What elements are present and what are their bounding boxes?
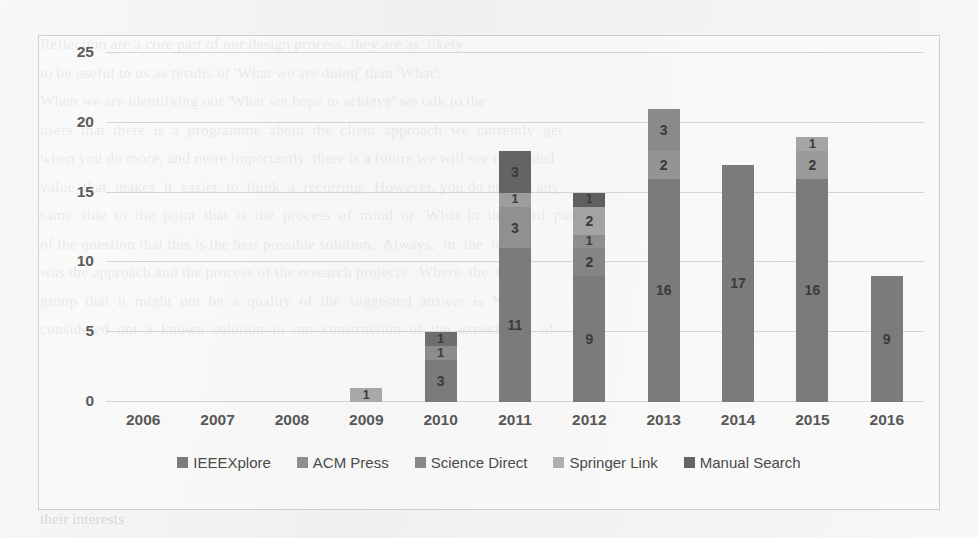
bar-column-2010[interactable]: 311 xyxy=(403,53,477,402)
legend-item-acm-press[interactable]: ACM Press xyxy=(297,454,389,471)
legend-label: ACM Press xyxy=(313,454,389,471)
bar-segment-2016-ieeexplore[interactable]: 9 xyxy=(871,276,903,402)
bar-segment-2010-springer-link[interactable]: 1 xyxy=(425,332,457,346)
bar-segment-2012-manual-search[interactable]: 1 xyxy=(573,193,605,207)
bar-segment-2012-science-direct[interactable]: 1 xyxy=(573,235,605,249)
legend-label: Springer Link xyxy=(569,454,657,471)
x-axis: 2006200720082009201020112012201320142015… xyxy=(106,402,924,429)
legend-swatch-icon xyxy=(553,457,564,468)
bar-segment-2013-science-direct[interactable]: 2 xyxy=(648,151,680,179)
legend-swatch-icon xyxy=(415,457,426,468)
y-axis-tick-0: 0 xyxy=(85,392,94,410)
legend-item-springer-link[interactable]: Springer Link xyxy=(553,454,657,471)
x-axis-tick-2013: 2013 xyxy=(627,402,701,429)
x-axis-tick-2009: 2009 xyxy=(329,402,403,429)
bar-column-2016[interactable]: 9 xyxy=(850,53,924,402)
bar-stack: 311 xyxy=(425,332,457,402)
bar-stack: 92121 xyxy=(573,193,605,402)
legend-swatch-icon xyxy=(684,457,695,468)
bar-segment-2012-springer-link[interactable]: 2 xyxy=(573,207,605,235)
legend-item-ieeexplore[interactable]: IEEEXplore xyxy=(177,454,271,471)
bar-segment-2010-ieeexplore[interactable]: 3 xyxy=(425,360,457,402)
x-axis-tick-2006: 2006 xyxy=(106,402,180,429)
y-axis-tick-15: 15 xyxy=(77,183,94,201)
x-axis-tick-2007: 2007 xyxy=(180,402,254,429)
bar-column-2013[interactable]: 1623 xyxy=(627,53,701,402)
x-axis-tick-2010: 2010 xyxy=(403,402,477,429)
bar-stack: 1 xyxy=(350,388,382,402)
legend-label: Science Direct xyxy=(431,454,528,471)
bar-stack: 9 xyxy=(871,276,903,402)
x-axis-tick-2011: 2011 xyxy=(478,402,552,429)
legend-swatch-icon xyxy=(297,457,308,468)
bar-segment-2012-acm-press[interactable]: 2 xyxy=(573,248,605,276)
bar-column-2009[interactable]: 1 xyxy=(329,53,403,402)
bar-segment-2015-springer-link[interactable]: 1 xyxy=(796,137,828,151)
bar-segment-2012-ieeexplore[interactable]: 9 xyxy=(573,276,605,402)
bar-segment-2015-ieeexplore[interactable]: 16 xyxy=(796,179,828,402)
y-axis-tick-5: 5 xyxy=(85,322,94,340)
bar-stack: 1621 xyxy=(796,137,828,402)
legend-item-manual-search[interactable]: Manual Search xyxy=(684,454,801,471)
legend-label: Manual Search xyxy=(700,454,801,471)
x-axis-tick-2014: 2014 xyxy=(701,402,775,429)
bar-column-2012[interactable]: 92121 xyxy=(552,53,626,402)
bar-segment-2011-springer-link[interactable]: 1 xyxy=(499,193,531,207)
legend-item-science-direct[interactable]: Science Direct xyxy=(415,454,528,471)
bar-segment-2014-ieeexplore[interactable]: 17 xyxy=(722,165,754,402)
bar-segment-2011-science-direct[interactable]: 3 xyxy=(499,207,531,249)
chart-container: 0510152025 1311113139212116231716219 200… xyxy=(38,35,940,510)
bar-column-2015[interactable]: 1621 xyxy=(775,53,849,402)
bar-segment-2015-science-direct[interactable]: 2 xyxy=(796,151,828,179)
bar-segment-2009-springer-link[interactable]: 1 xyxy=(350,388,382,402)
x-axis-tick-2008: 2008 xyxy=(255,402,329,429)
legend-label: IEEEXplore xyxy=(193,454,271,471)
bar-stack: 17 xyxy=(722,165,754,402)
bar-stack: 11313 xyxy=(499,151,531,402)
bar-column-2014[interactable]: 17 xyxy=(701,53,775,402)
bar-column-2007[interactable] xyxy=(180,53,254,402)
bar-segment-2010-science-direct[interactable]: 1 xyxy=(425,346,457,360)
bar-segment-2011-manual-search[interactable]: 3 xyxy=(499,151,531,193)
y-axis-tick-20: 20 xyxy=(77,113,94,131)
y-axis-tick-10: 10 xyxy=(77,252,94,270)
bar-segment-2013-manual-search[interactable]: 3 xyxy=(648,109,680,151)
x-axis-tick-2012: 2012 xyxy=(552,402,626,429)
y-axis-tick-25: 25 xyxy=(77,43,94,61)
bar-stack: 1623 xyxy=(648,109,680,402)
x-axis-tick-2015: 2015 xyxy=(775,402,849,429)
bar-column-2011[interactable]: 11313 xyxy=(478,53,552,402)
bar-series-group: 1311113139212116231716219 xyxy=(106,53,924,402)
bar-segment-2013-ieeexplore[interactable]: 16 xyxy=(648,179,680,402)
chart-legend: IEEEXploreACM PressScience DirectSpringe… xyxy=(39,454,939,471)
x-axis-tick-2016: 2016 xyxy=(850,402,924,429)
bar-column-2006[interactable] xyxy=(106,53,180,402)
bar-column-2008[interactable] xyxy=(255,53,329,402)
legend-swatch-icon xyxy=(177,457,188,468)
plot-area: 0510152025 1311113139212116231716219 xyxy=(106,53,924,402)
bar-segment-2011-ieeexplore[interactable]: 11 xyxy=(499,248,531,402)
